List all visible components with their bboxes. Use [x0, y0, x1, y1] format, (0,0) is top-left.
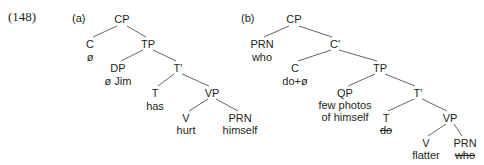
word-prn: himself — [223, 124, 258, 136]
word-v: hurt — [177, 124, 196, 136]
node-v: V — [182, 112, 189, 124]
node-vp: VP — [443, 112, 458, 124]
node-vp: VP — [205, 87, 220, 99]
node-tp: TP — [373, 62, 387, 74]
word-dp: ø Jim — [105, 75, 132, 87]
node-t: T — [383, 112, 390, 124]
node-tbar: T' — [174, 62, 183, 74]
node-cp: CP — [114, 13, 129, 25]
word-t-deleted: do — [380, 124, 392, 136]
tree-a-label: (a) — [72, 12, 85, 24]
node-v: V — [422, 137, 429, 149]
tree-branches — [0, 0, 484, 165]
word-c: ø — [87, 51, 94, 63]
node-tp: TP — [141, 38, 155, 50]
node-cbar: C' — [330, 38, 340, 50]
node-c: C — [86, 38, 94, 50]
word-prn2-deleted: who — [455, 149, 475, 161]
node-tbar: T' — [414, 87, 423, 99]
word-v: flatter — [412, 149, 440, 161]
word-qp-line1: few photos — [318, 99, 371, 111]
word-qp-line2: of himself — [321, 111, 368, 123]
example-number: (148) — [8, 9, 36, 25]
node-dp: DP — [110, 62, 125, 74]
tree-b-label: (b) — [241, 12, 254, 24]
word-c: do+ø — [282, 75, 307, 87]
node-c: C — [291, 62, 299, 74]
node-prn2: PRN — [453, 137, 476, 149]
node-prn: PRN — [228, 112, 251, 124]
node-qp: QP — [337, 87, 353, 99]
word-prn: who — [252, 51, 272, 63]
node-t: T — [152, 87, 159, 99]
node-cp: CP — [286, 13, 301, 25]
word-t: has — [146, 100, 164, 112]
node-prn: PRN — [250, 38, 273, 50]
